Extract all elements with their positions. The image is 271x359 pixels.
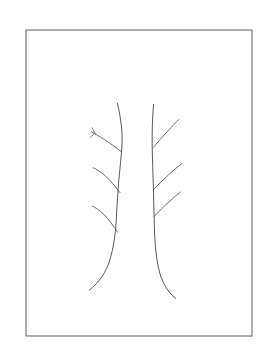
- tree-line-drawing: [0, 0, 271, 359]
- border-rectangle: [26, 30, 252, 336]
- artboard: Two bare tree trunks winter trees withou…: [0, 0, 271, 359]
